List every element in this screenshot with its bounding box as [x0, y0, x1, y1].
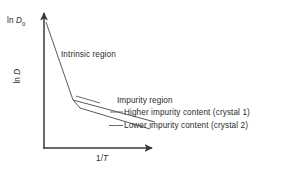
y-axis-intercept-label: ln D0: [7, 17, 26, 27]
diffusivity-arrhenius-figure: ln D0 ln D 1/T Intrinsic region Impurity…: [0, 0, 288, 178]
y-axis-label: ln D: [14, 56, 22, 96]
y-axis-intercept-prefix: ln: [7, 16, 16, 25]
intrinsic-region-label: Intrinsic region: [61, 51, 116, 59]
y-axis-intercept-subscript: 0: [22, 20, 26, 27]
x-axis-label-symbol: T: [103, 154, 108, 163]
y-axis-label-prefix: ln: [13, 75, 22, 84]
intrinsic-region-line: [46, 22, 73, 100]
impurity-region-label: Impurity region: [117, 97, 173, 105]
y-axis-label-symbol: D: [13, 69, 22, 75]
higher-impurity-content-label: Higher impurity content (crystal 1): [124, 109, 250, 117]
plot-canvas: [0, 0, 288, 178]
x-axis-label-numerator: 1/: [96, 154, 103, 163]
x-axis-label: 1/T: [96, 155, 108, 163]
lower-impurity-content-label: Lower impurity content (crystal 2): [124, 122, 248, 130]
